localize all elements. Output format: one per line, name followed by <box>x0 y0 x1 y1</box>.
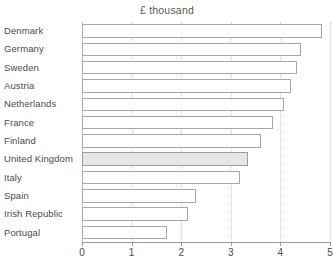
gridline-5 <box>330 22 331 242</box>
bar-series <box>82 22 330 242</box>
bar-spain <box>82 189 196 203</box>
category-axis: DenmarkGermanySwedenAustriaNetherlandsFr… <box>0 22 78 242</box>
bar-row <box>82 169 330 187</box>
category-label-netherlands: Netherlands <box>0 95 78 113</box>
category-label-denmark: Denmark <box>0 22 78 40</box>
bar-united-kingdom <box>82 152 248 166</box>
bar-row <box>82 132 330 150</box>
category-label-germany: Germany <box>0 40 78 58</box>
category-label-france: France <box>0 114 78 132</box>
bar-germany <box>82 43 301 57</box>
bar-row <box>82 150 330 168</box>
x-tick-label-3: 3 <box>228 247 234 258</box>
bar-row <box>82 205 330 223</box>
x-tick-3 <box>231 242 232 246</box>
plot-area <box>82 22 330 242</box>
category-label-italy: Italy <box>0 169 78 187</box>
category-label-united-kingdom: United Kingdom <box>0 150 78 168</box>
category-label-irish-republic: Irish Republic <box>0 205 78 223</box>
bar-row <box>82 59 330 77</box>
x-tick-5 <box>330 242 331 246</box>
bar-row <box>82 77 330 95</box>
bar-sweden <box>82 61 297 75</box>
bar-row <box>82 95 330 113</box>
category-label-finland: Finland <box>0 132 78 150</box>
category-label-spain: Spain <box>0 187 78 205</box>
x-tick-1 <box>132 242 133 246</box>
category-label-portugal: Portugal <box>0 224 78 242</box>
category-label-austria: Austria <box>0 77 78 95</box>
x-tick-label-2: 2 <box>178 247 184 258</box>
bar-row <box>82 187 330 205</box>
bar-row <box>82 114 330 132</box>
bar-irish-republic <box>82 207 188 221</box>
bar-finland <box>82 134 261 148</box>
chart-title: £ thousand <box>0 4 334 16</box>
bar-denmark <box>82 24 322 38</box>
bar-chart: £ thousand DenmarkGermanySwedenAustriaNe… <box>0 0 334 269</box>
x-tick-label-5: 5 <box>327 247 333 258</box>
bar-portugal <box>82 226 167 240</box>
bar-row <box>82 22 330 40</box>
x-tick-label-1: 1 <box>129 247 135 258</box>
bar-row <box>82 40 330 58</box>
bar-france <box>82 116 273 130</box>
x-tick-label-0: 0 <box>79 247 85 258</box>
x-tick-4 <box>280 242 281 246</box>
x-axis-tick-labels: 012345 <box>82 247 330 263</box>
x-tick-2 <box>181 242 182 246</box>
category-label-sweden: Sweden <box>0 59 78 77</box>
x-tick-label-4: 4 <box>278 247 284 258</box>
bar-italy <box>82 171 240 185</box>
bar-netherlands <box>82 98 284 112</box>
bar-austria <box>82 79 291 93</box>
x-tick-0 <box>82 242 83 246</box>
bar-row <box>82 224 330 242</box>
